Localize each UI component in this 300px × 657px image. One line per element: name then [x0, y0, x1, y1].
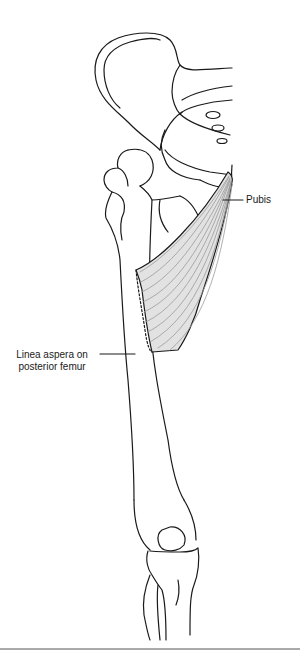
anatomy-drawing [0, 0, 300, 657]
label-linea-aspera-line2: posterior femur [8, 361, 96, 373]
femur [104, 149, 200, 640]
label-pubis: Pubis [246, 194, 271, 206]
label-linea-aspera: Linea aspera on posterior femur [8, 349, 96, 373]
label-linea-aspera-line1: Linea aspera on [8, 349, 96, 361]
pelvis [95, 33, 232, 205]
adductor-muscle [136, 172, 232, 352]
